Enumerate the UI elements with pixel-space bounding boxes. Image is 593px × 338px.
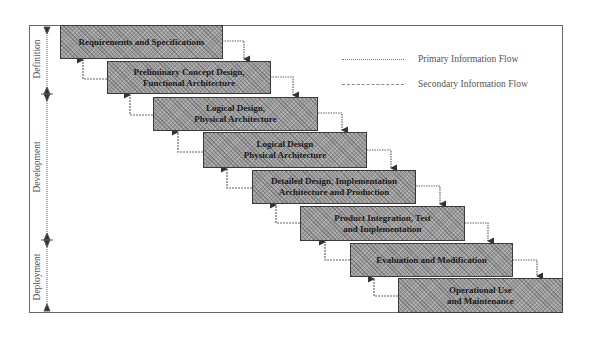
stage-evaluation-modification: Evaluation and Modification	[350, 243, 513, 277]
legend-secondary-label: Secondary Information Flow	[418, 79, 528, 89]
legend-primary-line	[342, 59, 404, 60]
stage-operational-use: Operational Use and Maintenance	[398, 278, 563, 313]
legend-primary-label: Primary Information Flow	[418, 54, 518, 64]
stage-logical-design-1: Logical Design, Physical Architecture	[153, 97, 318, 131]
legend-secondary-line	[342, 84, 404, 85]
stage-logical-design-2: Logical Design Physical Architecture	[203, 132, 367, 168]
stage-preliminary-concept-design: Preliminary Concept Design, Functional A…	[107, 61, 271, 94]
stage-requirements-specifications: Requirements and Specifications	[60, 25, 223, 59]
stage-detailed-design: Detailed Design, Implementation Architec…	[252, 170, 416, 204]
legend-primary: Primary Information Flow	[342, 54, 518, 64]
phase-label-definition: Definition	[32, 27, 44, 91]
phase-label-development: Development	[32, 130, 44, 204]
stage-product-integration: Product Integration, Test and Implementa…	[300, 206, 465, 241]
phase-label-deployment: Deployment	[32, 244, 44, 310]
legend-secondary: Secondary Information Flow	[342, 79, 528, 89]
